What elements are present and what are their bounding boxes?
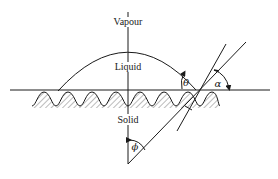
alpha-arc-start-tick — [214, 70, 219, 71]
label-liquid: Liquid — [115, 61, 142, 72]
label-alpha: α — [215, 78, 222, 89]
label-vapour: Vapour — [114, 16, 144, 27]
label-theta: θ — [183, 77, 189, 88]
label-phi: ϕ — [132, 141, 139, 152]
contact-angle-diagram: Vapour Liquid Solid θ α ϕ — [0, 0, 278, 179]
label-solid: Solid — [117, 114, 138, 125]
